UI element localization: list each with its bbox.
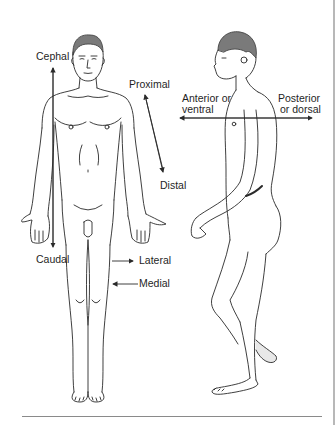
label-lateral: Lateral — [139, 255, 171, 266]
page-edge — [333, 0, 335, 425]
label-medial: Medial — [139, 278, 170, 289]
label-cephal: Cephal — [36, 51, 69, 62]
label-proximal: Proximal — [129, 79, 170, 90]
label-distal: Distal — [160, 180, 186, 191]
label-posterior-line2: or dorsal — [280, 104, 321, 115]
figure-drawing — [0, 0, 336, 425]
side-figure — [191, 32, 281, 395]
label-anterior-line2: ventral — [182, 104, 214, 115]
anatomy-diagram: Cephal Caudal Proximal Distal Lateral Me… — [0, 0, 336, 425]
bottom-divider — [22, 416, 322, 417]
label-caudal: Caudal — [36, 254, 69, 265]
